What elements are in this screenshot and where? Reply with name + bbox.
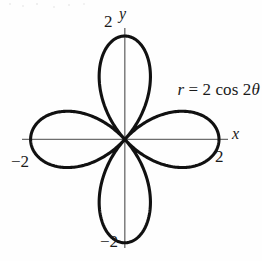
- polar-rose-figure: y x 2 −2 2 −2 r = 2 cos 2θ: [0, 0, 262, 261]
- equation-relation: = 2 cos 2: [184, 80, 251, 99]
- equation-annotation: r = 2 cos 2θ: [160, 64, 260, 115]
- plot-canvas: [0, 0, 262, 261]
- y-axis-tick-label-negative-two: −2: [100, 233, 118, 250]
- x-axis-label: x: [232, 126, 239, 142]
- y-axis-tick-label-positive-two: 2: [104, 13, 113, 30]
- x-axis-tick-label-positive-two: 2: [215, 148, 224, 165]
- equation-theta-symbol: θ: [251, 80, 259, 99]
- x-axis-tick-label-negative-two: −2: [11, 153, 29, 170]
- y-axis-label: y: [119, 6, 126, 22]
